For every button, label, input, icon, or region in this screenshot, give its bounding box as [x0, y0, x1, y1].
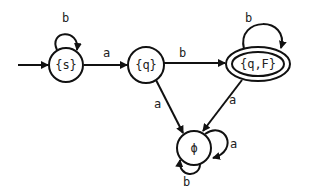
edge-s-s-b: b [55, 11, 77, 50]
edge-label: a [154, 97, 161, 111]
edge-label: a [103, 46, 110, 60]
state-q: {q} [128, 47, 164, 83]
state-s: {s} [49, 48, 83, 82]
edge-qF-phi-a: a [203, 80, 242, 131]
state-label: {q} [135, 58, 157, 72]
edge-qF-qF-b: b [243, 11, 282, 49]
edge-label: b [179, 46, 186, 60]
edge-label: a [229, 93, 236, 107]
state-phi: ϕ [177, 131, 211, 165]
edge-q-qF-b: b [164, 46, 225, 63]
edge-label: b [183, 175, 190, 189]
dfa-diagram: b a b a b a a b {s} {q} [0, 0, 311, 195]
edge-label: a [230, 137, 237, 151]
state-label: {s} [55, 58, 77, 72]
edge-label: b [62, 11, 69, 25]
state-qF-accepting: {q,F} [226, 47, 290, 81]
state-label: {q,F} [240, 57, 276, 71]
edge-s-q-a: a [84, 46, 127, 65]
edge-q-phi-a: a [154, 80, 183, 133]
edge-label: b [245, 11, 252, 25]
state-label: ϕ [190, 141, 197, 155]
